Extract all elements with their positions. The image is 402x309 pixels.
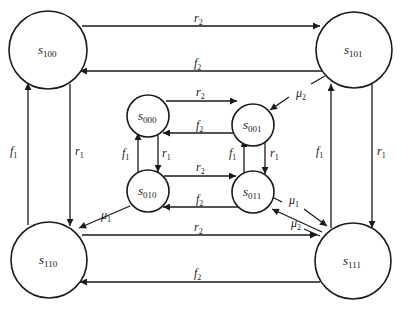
label-r2-bottom: r2 bbox=[194, 220, 203, 236]
label-f2-top: f2 bbox=[194, 56, 201, 72]
node-s010: s010 bbox=[127, 170, 169, 212]
label-mu2-top: μ2 bbox=[295, 86, 306, 102]
label-mu2-bottom: μ2 bbox=[290, 216, 301, 232]
node-s011: s011 bbox=[232, 171, 274, 213]
node-s100: s100 bbox=[9, 11, 87, 89]
label-r1-inner-left: r1 bbox=[162, 146, 171, 162]
label-r1-left: r1 bbox=[75, 144, 84, 160]
label-r1-right: r1 bbox=[377, 144, 386, 160]
label-r2-top: r2 bbox=[194, 11, 203, 27]
label-mu1-right: μ1 bbox=[288, 193, 299, 209]
node-s101: s101 bbox=[316, 12, 392, 88]
label-f1-right: f1 bbox=[316, 144, 323, 160]
edge-s011-to-s111-mu1 bbox=[304, 209, 327, 226]
label-f2-bottom: f2 bbox=[194, 266, 201, 282]
node-s110: s110 bbox=[11, 222, 87, 298]
label-r2-inner-bottom: r2 bbox=[196, 160, 205, 176]
label-f1-inner-right: f1 bbox=[229, 146, 236, 162]
label-f1-inner-left: f1 bbox=[122, 146, 129, 162]
label-f2-inner-bottom: f2 bbox=[196, 192, 203, 208]
label-f1-left: f1 bbox=[10, 144, 17, 160]
mu-tick-s101 bbox=[311, 76, 325, 84]
label-r2-inner-top: r2 bbox=[196, 85, 205, 101]
node-s111: s111 bbox=[315, 223, 391, 299]
label-f2-inner-top: f2 bbox=[196, 118, 203, 134]
node-s000: s000 bbox=[127, 95, 169, 137]
state-diagram: s100 s101 s110 s111 s000 s001 s010 s011 … bbox=[0, 0, 402, 309]
label-r1-inner-right: r1 bbox=[270, 146, 279, 162]
label-mu1-left: μ1 bbox=[100, 208, 111, 224]
edge-s101-to-s001-mu2 bbox=[270, 97, 289, 110]
node-s001: s001 bbox=[232, 104, 274, 146]
